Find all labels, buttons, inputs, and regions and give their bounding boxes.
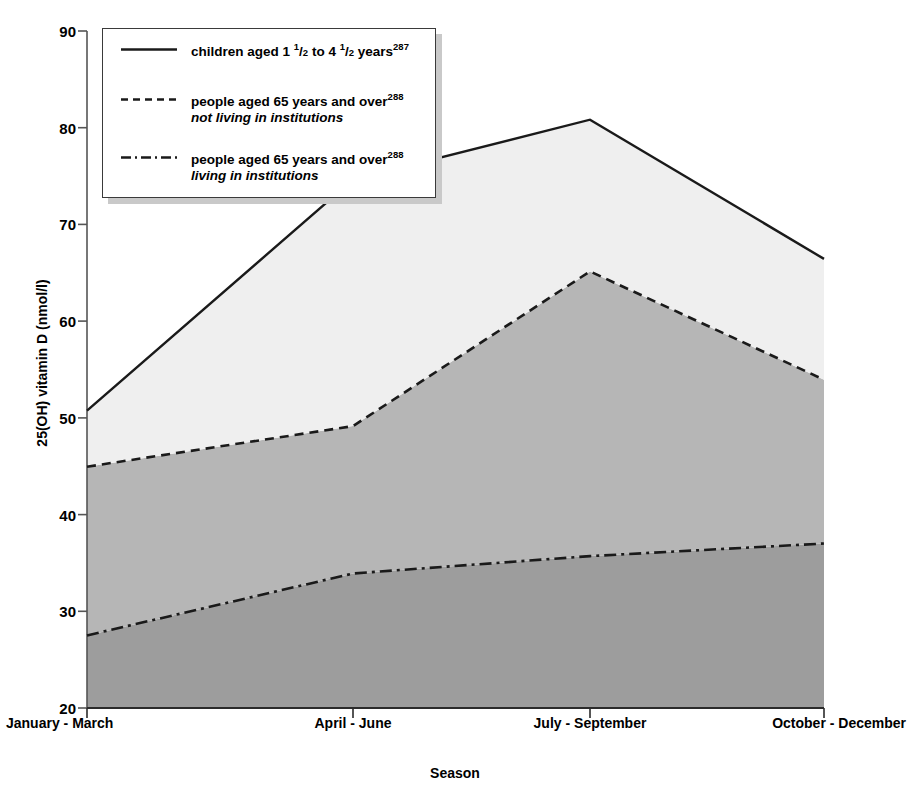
legend-fraction-one-half-a: 1/2 [294,41,308,60]
y-axis-title: 25(OH) vitamin D (nmol/l) [34,233,50,493]
legend-fraction-one-half-b: 1/2 [340,41,354,60]
y-tick-label-50: 50 [24,410,76,425]
legend-elderly-prefix-1: people aged 65 years and over [191,94,388,109]
legend-label-in-institutions: people aged 65 years and over288 living … [191,149,403,185]
legend-line-sample-dashed [121,98,177,101]
vitamin-d-season-area-chart: 90 80 70 60 50 40 30 20 January - March … [0,0,910,793]
legend-label-children: children aged 1 1/2 to 4 1/2 years287 [191,41,409,60]
frac-b-numerator: 1 [340,41,345,52]
y-tick-label-40: 40 [24,507,76,522]
frac-a-numerator: 1 [294,41,299,52]
legend-elderly-second-line-2: living in institutions [191,168,403,185]
y-tick-label-30: 30 [24,604,76,619]
y-tick-label-70: 70 [24,217,76,232]
x-tick-label-october-december: October - December [772,716,906,730]
y-tick-label-90: 90 [24,24,76,39]
y-tick-label-20: 20 [24,701,76,716]
x-tick-label-april-june: April - June [314,716,391,730]
x-axis-ticks [87,708,824,718]
legend-item-children: children aged 1 1/2 to 4 1/2 years287 [103,41,435,81]
y-axis-ticks [78,31,87,708]
y-tick-label-60: 60 [24,314,76,329]
x-tick-label-july-september: July - September [534,716,647,730]
legend-children-middle: to 4 [308,44,340,59]
legend-item-not-in-institutions: people aged 65 years and over288 not liv… [103,91,435,131]
legend-footnote-288-a: 288 [388,91,404,102]
x-axis-title: Season [0,765,910,781]
x-tick-label-january-march: January - March [6,716,113,730]
legend-footnote-287: 287 [393,41,409,52]
legend-children-suffix: years [354,44,393,59]
legend-children-prefix: children aged 1 [191,44,294,59]
legend-elderly-prefix-2: people aged 65 years and over [191,152,388,167]
chart-legend: children aged 1 1/2 to 4 1/2 years287 pe… [102,28,436,198]
legend-elderly-second-line-1: not living in institutions [191,110,403,127]
y-tick-label-80: 80 [24,120,76,135]
legend-line-sample-solid [121,48,177,51]
legend-item-in-institutions: people aged 65 years and over288 living … [103,149,435,189]
legend-line-sample-dash-dot [121,156,177,159]
legend-label-not-in-institutions: people aged 65 years and over288 not liv… [191,91,403,127]
legend-footnote-288-b: 288 [388,149,404,160]
